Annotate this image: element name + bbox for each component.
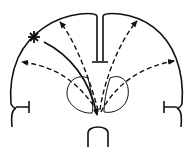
nucleus-right [104, 77, 128, 113]
hemisphere-outline-right [103, 14, 182, 127]
dashed-arrows [22, 21, 174, 112]
brain-diagram [0, 0, 192, 147]
dashed-arrow-right [101, 61, 174, 112]
brainstem-outline [88, 127, 108, 147]
nucleus-left [67, 77, 93, 113]
midline-fissure [92, 16, 108, 62]
hemisphere-outline-left [11, 14, 97, 127]
dashed-arrow-left [22, 62, 98, 112]
